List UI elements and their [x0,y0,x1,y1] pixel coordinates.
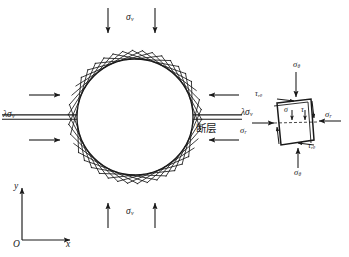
inner-tau-label: τ [301,106,304,114]
lambda-sigma-v-right-label: λσv [241,108,253,118]
origin-label: O [13,240,20,250]
tunnel-stress-diagram [0,0,349,257]
x-axis-label: x [66,240,70,250]
sigma-v-bottom-label: σv [126,207,133,217]
sigma-theta-top-label: σθ [293,60,300,69]
inner-sigma-label: σ [284,106,288,114]
y-axis-label: y [14,182,18,192]
diagram-background [0,0,349,257]
sigma-theta-bottom-label: σθ [294,168,301,177]
sigma-r-right-label: σr [325,110,331,119]
tau-r-theta-bottom-label: τrθ [308,142,315,151]
sigma-r-left-label: σr [240,126,246,135]
tau-r-theta-top-label: τrθ [255,90,262,99]
sigma-v-top-label: σv [126,13,133,23]
fault-label: 断层 [196,123,216,134]
lambda-sigma-v-left-label: λσv [3,110,15,120]
